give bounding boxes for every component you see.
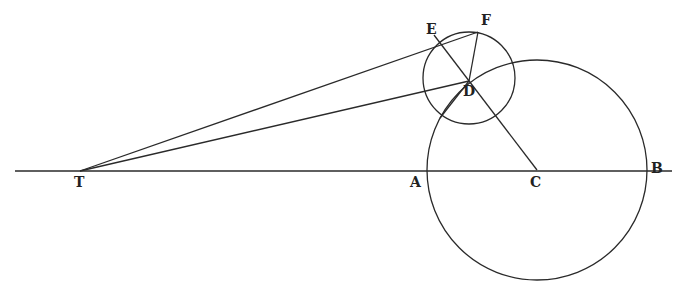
label-C: C xyxy=(530,174,541,190)
label-B: B xyxy=(651,160,663,176)
label-T: T xyxy=(74,174,84,190)
label-A: A xyxy=(410,174,421,190)
line-TE xyxy=(80,32,478,171)
line-DF xyxy=(469,32,478,81)
label-F: F xyxy=(481,12,491,28)
geometry-figure xyxy=(0,0,675,291)
line-TD xyxy=(80,81,469,171)
label-E: E xyxy=(426,21,437,37)
diagram: T A C B D E F xyxy=(0,0,675,291)
label-D: D xyxy=(463,83,475,99)
